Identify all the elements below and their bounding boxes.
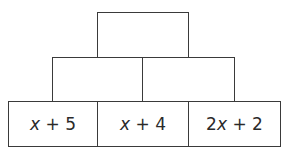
brick-rest: + 4 <box>130 114 166 134</box>
brick-var: x <box>217 114 227 134</box>
brick-var: x <box>30 114 40 134</box>
middle-brick-right <box>142 57 235 102</box>
bottom-brick-middle: x + 4 <box>97 101 189 147</box>
brick-rest: + 2 <box>227 114 263 134</box>
middle-brick-left <box>52 57 143 102</box>
top-brick <box>97 12 189 58</box>
bottom-brick-left: x + 5 <box>8 101 98 147</box>
brick-var: x <box>120 114 130 134</box>
brick-coef: 2 <box>206 114 217 134</box>
bottom-brick-right: 2x + 2 <box>188 101 281 147</box>
brick-rest: + 5 <box>40 114 76 134</box>
